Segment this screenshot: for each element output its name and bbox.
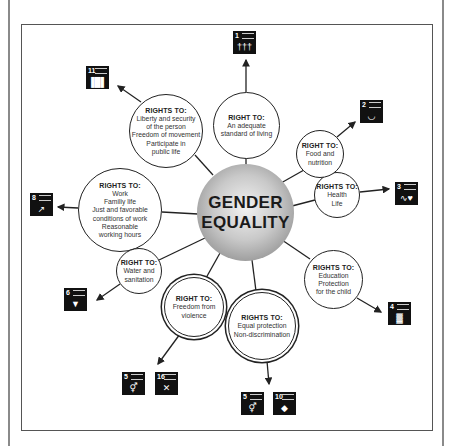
node-food: RIGHT TO: Food and nutrition [296, 130, 344, 178]
node-line: Protection [318, 280, 349, 288]
sdg-8-decent-work-icon: 8 ↗ [30, 193, 53, 216]
sdg-16-peace-justice-icon: 16 ✕ [155, 372, 178, 395]
gender-symbol-icon: ⚥ [122, 383, 145, 393]
dove-peace-icon: ✕ [155, 383, 178, 393]
heartbeat-icon: ∿♥ [395, 193, 418, 203]
node-heading: RIGHTS TO: [313, 263, 354, 272]
sdg-3-good-health-icon: 3 ∿♥ [395, 182, 418, 205]
node-line: nutrition [308, 159, 332, 167]
node-violence: RIGHT TO: Freedom from violence [164, 277, 224, 337]
gender-symbol-icon: ⚥ [241, 403, 264, 413]
node-line: Freedom from [173, 303, 216, 311]
node-line: Reasonable [102, 223, 138, 231]
node-line: of the person [146, 123, 186, 131]
city-buildings-icon: ▐█▌ [86, 77, 109, 87]
sdg-number: 3 [397, 183, 401, 191]
node-line: Non-discrimination [234, 331, 290, 339]
node-heading: RIGHT TO: [302, 141, 339, 150]
node-line: conditions of work [93, 215, 147, 223]
reduced-inequalities-icon: ◆ [273, 403, 296, 413]
sdg-number: 2 [362, 101, 366, 109]
sdg-10-reduced-inequalities-icon: 10 ◆ [273, 392, 296, 415]
node-line: Food and [306, 150, 335, 158]
node-line: working hours [99, 231, 141, 239]
node-heading: RIGHTS TO: [99, 181, 140, 190]
node-education: RIGHTS TO: Education Protection for the … [304, 250, 363, 309]
sdg-number: 6 [66, 289, 70, 297]
node-water: RIGHT TO: Water and sanitation [116, 248, 162, 294]
sdg-number: 8 [32, 194, 36, 202]
node-line: Equal protection [237, 322, 286, 330]
node-line: Participate in [146, 140, 185, 148]
sdg-number: 1 [235, 32, 239, 40]
center-title-line2: EQUALITY [201, 213, 289, 233]
sdg-number: 4 [390, 303, 394, 311]
node-line: Freedom of movement [132, 131, 200, 139]
sdg-11-sustainable-cities-icon: 11 ▐█▌ [86, 66, 109, 89]
node-line: violence [182, 312, 207, 320]
node-line: An adequate [227, 122, 266, 130]
node-line: public life [152, 148, 180, 156]
node-line: Just and favorable [92, 206, 148, 214]
node-line: Work [112, 190, 128, 198]
sdg-6-clean-water-icon: 6 ▼ [64, 288, 87, 311]
family-icon: ††† [233, 42, 256, 52]
sdg-4-quality-education-icon: 4 ▓ [388, 302, 411, 325]
sdg-5-gender-equality-icon: 5 ⚥ [241, 392, 264, 415]
growth-chart-icon: ↗ [30, 204, 53, 214]
node-line: standard of living [221, 130, 272, 138]
center-title-line1: GENDER [208, 193, 283, 213]
node-line: sanitation [124, 276, 153, 284]
sdg-1-no-poverty-icon: 1 ††† [233, 31, 256, 54]
node-heading: RIGHTS TO: [316, 182, 357, 191]
sdg-number: 5 [243, 393, 247, 401]
node-heading: RIGHT TO: [121, 258, 158, 267]
node-line: Health [327, 191, 347, 199]
node-liberty: RIGHTS TO: Liberty and security of the p… [129, 94, 203, 168]
node-line: Life [332, 200, 343, 208]
node-equal-protection: RIGHTS TO: Equal protection Non-discrimi… [228, 292, 296, 360]
water-drop-icon: ▼ [64, 299, 87, 309]
node-heading: RIGHTS TO: [145, 106, 186, 115]
node-line: Familiy life [104, 198, 136, 206]
node-line: Water and [123, 267, 154, 275]
sdg-5-gender-equality-icon: 5 ⚥ [122, 372, 145, 395]
node-adequate-standard: RIGHT TO: An adequate standard of living [213, 92, 280, 159]
node-heading: RIGHT TO: [176, 294, 213, 303]
node-line: for the child [316, 288, 351, 296]
sdg-number: 5 [124, 373, 128, 381]
node-work: RIGHTS TO: Work Familiy life Just and fa… [78, 168, 162, 252]
node-line: Education [318, 272, 348, 280]
sdg-2-zero-hunger-icon: 2 ◡ [360, 100, 383, 123]
node-heading: RIGHT TO: [228, 113, 265, 122]
node-health: RIGHTS TO: Health Life [314, 172, 360, 218]
food-bowl-icon: ◡ [360, 111, 383, 121]
node-heading: RIGHTS TO: [241, 313, 282, 322]
gender-equality-sphere: GENDER EQUALITY [197, 164, 294, 261]
open-book-icon: ▓ [388, 313, 411, 323]
node-line: Liberty and security [137, 115, 196, 123]
